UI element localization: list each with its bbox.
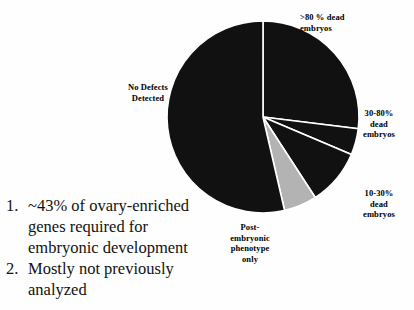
notes-list: 1. ~43% of ovary-enriched genes required… xyxy=(6,195,220,300)
list-item: 1. ~43% of ovary-enriched genes required… xyxy=(6,195,220,258)
pie-label-30-80-dead-embryos: 30-80% dead embryos xyxy=(344,108,414,140)
pie-label-10-30-dead-embryos: 10-30% dead embryos xyxy=(344,188,414,220)
pie-label-gt80-dead-embryos: >80 % dead embryos xyxy=(300,12,404,33)
slide-canvas: >80 % dead embryos 30-80% dead embryos 1… xyxy=(0,0,414,310)
list-item-text: Mostly not previously analyzed xyxy=(28,258,220,300)
list-item: 2. Mostly not previously analyzed xyxy=(6,258,220,300)
list-item-number: 1. xyxy=(6,195,28,216)
pie-slice-group xyxy=(167,21,359,213)
pie-label-no-defects-detected: No Defects Detected xyxy=(106,82,190,103)
list-item-number: 2. xyxy=(6,258,28,279)
list-item-text: ~43% of ovary-enriched genes required fo… xyxy=(28,195,220,258)
pie-label-post-embryonic-phenotype-only: Post- embryonic phenotype only xyxy=(212,222,288,264)
